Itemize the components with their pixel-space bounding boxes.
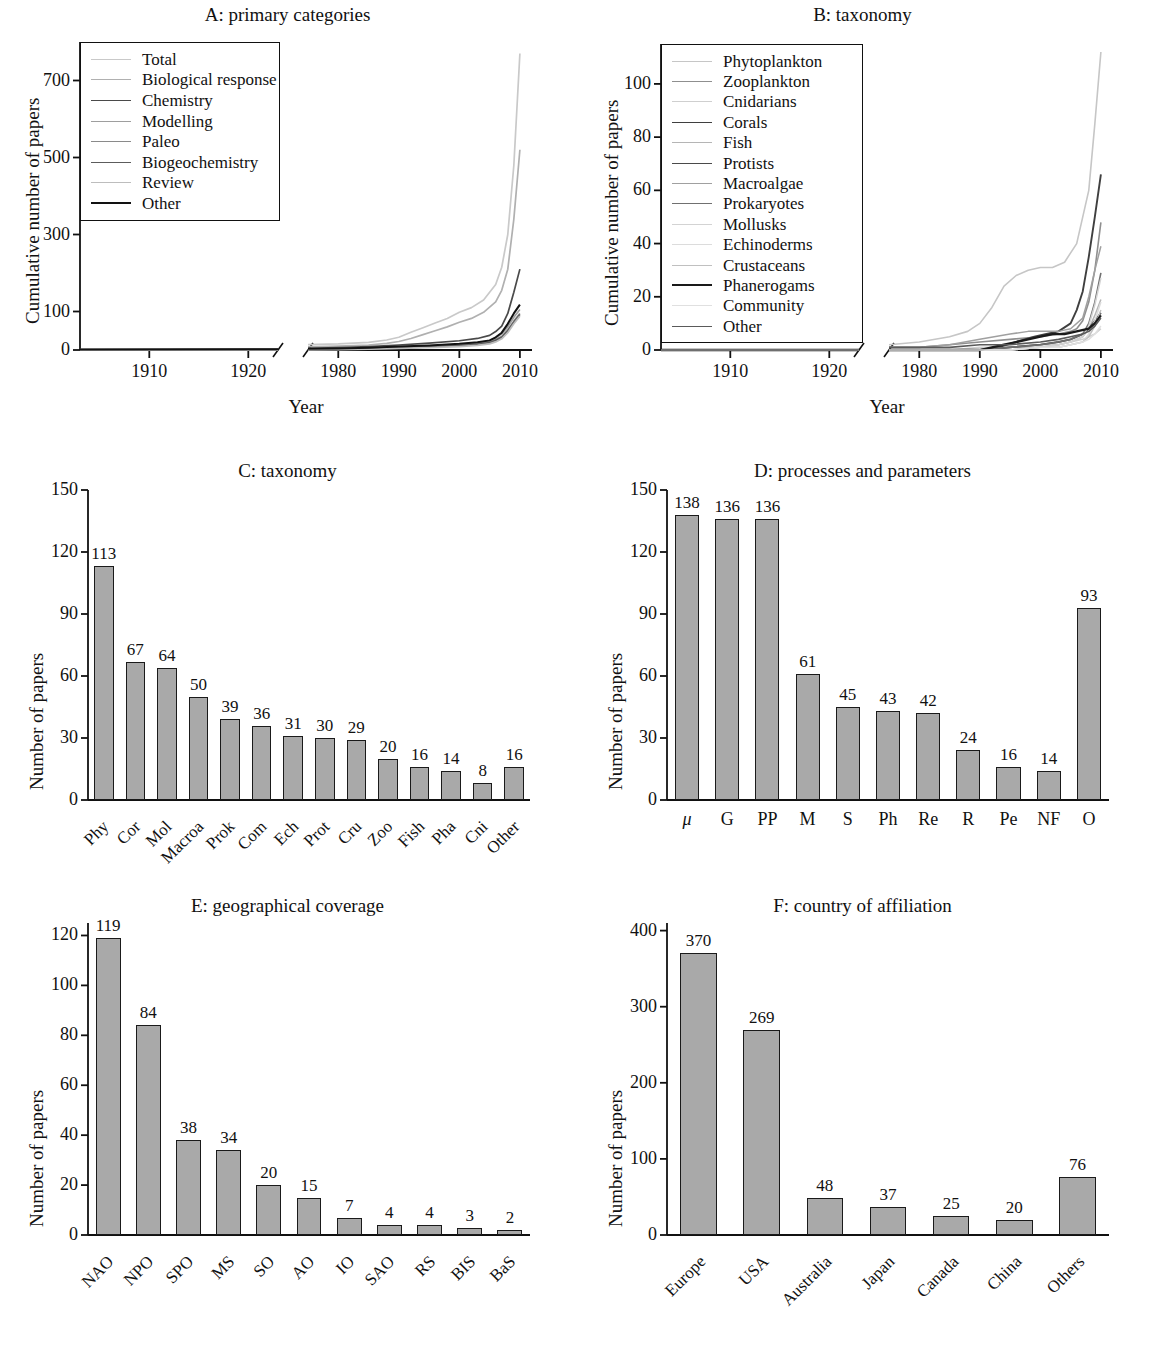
bar <box>675 515 699 800</box>
bar <box>996 767 1020 800</box>
legend-swatch <box>672 224 712 225</box>
bar-value: 50 <box>175 675 223 695</box>
panel-F-ytick: 300 <box>605 996 657 1017</box>
panel-B-ytick: 0 <box>595 339 651 360</box>
legend-label: Echinoderms <box>723 236 813 253</box>
legend-swatch <box>672 265 712 266</box>
panel-A-xtick: 1910 <box>119 361 179 382</box>
bar <box>876 711 900 800</box>
panel-A-ytick: 500 <box>14 147 70 168</box>
panel-B-xtick: 2000 <box>1010 361 1070 382</box>
panel-C: C: taxonomyNumber of papers0306090120150… <box>0 460 575 890</box>
legend-item: Mollusks <box>662 214 862 234</box>
legend-swatch <box>672 305 712 306</box>
panel-B-ytick: 100 <box>595 73 651 94</box>
panel-E-ytick: 40 <box>26 1124 78 1145</box>
bar-value: 119 <box>82 916 135 936</box>
panel-A-xtick: 1980 <box>308 361 368 382</box>
bar-value: 34 <box>202 1128 255 1148</box>
panel-C-ytick: 120 <box>26 541 78 562</box>
bar <box>956 750 980 800</box>
legend-swatch <box>91 59 131 60</box>
bar <box>96 938 121 1235</box>
bar <box>807 1198 844 1235</box>
bar-value: 14 <box>1023 749 1075 769</box>
panel-A-ytick: 700 <box>14 70 70 91</box>
bar <box>256 1185 281 1235</box>
panel-A-xtick: 2000 <box>429 361 489 382</box>
bar <box>755 519 779 800</box>
legend-label: Prokaryotes <box>723 195 804 212</box>
bar-value: 269 <box>729 1008 794 1028</box>
panel-D: D: processes and parametersNumber of pap… <box>575 460 1150 890</box>
legend-item: Chemistry <box>81 90 279 111</box>
bar <box>126 662 146 800</box>
legend-item: Echinoderms <box>662 235 862 255</box>
bar <box>136 1025 161 1235</box>
bar-value: 84 <box>122 1003 175 1023</box>
legend-label: Chemistry <box>142 92 213 109</box>
panel-A-ytick: 0 <box>14 339 70 360</box>
bar-value: 25 <box>919 1194 984 1214</box>
legend-item: Prokaryotes <box>662 194 862 214</box>
panel-E-ytick: 80 <box>26 1024 78 1045</box>
panel-B-xtick: 1910 <box>700 361 760 382</box>
legend-label: Review <box>142 174 194 191</box>
legend-item: Phytoplankton <box>662 51 862 71</box>
bar <box>1037 771 1061 800</box>
legend-swatch <box>91 202 131 204</box>
legend-item: Modelling <box>81 111 279 132</box>
panel-E-ytick: 20 <box>26 1174 78 1195</box>
panel-B-ytick: 60 <box>595 179 651 200</box>
panel-B-xtick: 1990 <box>950 361 1010 382</box>
panel-D-ytick: 60 <box>605 665 657 686</box>
legend-label: Cnidarians <box>723 93 797 110</box>
panel-A-xtick: 2010 <box>490 361 550 382</box>
bar-value: 64 <box>143 646 191 666</box>
panel-C-ytick: 60 <box>26 665 78 686</box>
panel-D-ytick: 120 <box>605 541 657 562</box>
legend-label: Protists <box>723 155 774 172</box>
legend-label: Community <box>723 297 804 314</box>
figure-root: A: primary categoriesCumulative number o… <box>0 0 1150 1357</box>
legend-label: Total <box>142 51 177 68</box>
legend-item: Review <box>81 173 279 194</box>
bar <box>315 738 335 800</box>
legend-label: Other <box>142 195 181 212</box>
bar-value: 370 <box>666 931 731 951</box>
bar <box>176 1140 201 1235</box>
panel-B-xtick: 1920 <box>799 361 859 382</box>
bar-value: 136 <box>741 497 793 517</box>
bar-value: 61 <box>782 652 834 672</box>
legend-swatch <box>672 122 712 123</box>
legend-item: Macroalgae <box>662 173 862 193</box>
panel-B-xtick: 2010 <box>1071 361 1131 382</box>
panel-D-ytick: 30 <box>605 727 657 748</box>
bar <box>297 1198 322 1235</box>
panel-B-ytick: 80 <box>595 126 651 147</box>
legend-item: Phanerogams <box>662 275 862 295</box>
bar <box>283 736 303 800</box>
panel-E-ytick: 100 <box>26 974 78 995</box>
bar-value: 29 <box>333 718 381 738</box>
legend-label: Phytoplankton <box>723 53 822 70</box>
bar <box>457 1228 482 1235</box>
bar-value: 93 <box>1063 586 1115 606</box>
legend-label: Phanerogams <box>723 277 815 294</box>
legend-swatch <box>672 284 712 286</box>
legend-swatch <box>672 203 712 204</box>
bar-value: 15 <box>283 1176 336 1196</box>
bar <box>996 1220 1033 1235</box>
legend-label: Biogeochemistry <box>142 154 258 171</box>
bar <box>473 783 493 800</box>
panel-D-ytick: 0 <box>605 789 657 810</box>
bar <box>715 519 739 800</box>
bar <box>252 726 272 800</box>
legend-label: Corals <box>723 114 767 131</box>
bar <box>933 1216 970 1235</box>
panel-F: F: country of affiliationNumber of paper… <box>575 895 1150 1355</box>
bar-value: 37 <box>856 1185 921 1205</box>
legend-label: Macroalgae <box>723 175 803 192</box>
legend-label: Fish <box>723 134 752 151</box>
legend-swatch <box>91 100 131 101</box>
